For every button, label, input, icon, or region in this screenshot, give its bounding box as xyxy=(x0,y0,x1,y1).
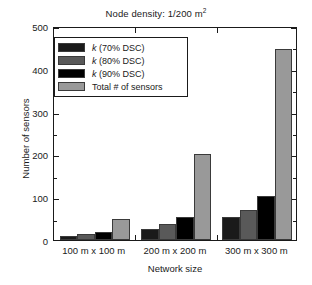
y-axis-tick-minor xyxy=(54,178,57,179)
x-axis-tick xyxy=(217,235,218,240)
y-axis-tick-minor-right xyxy=(293,49,296,50)
y-axis-tick-label: 400 xyxy=(14,64,48,75)
chart-title: Node density: 1/200 m2 xyxy=(0,8,312,19)
bar xyxy=(257,196,275,240)
bar xyxy=(240,210,258,240)
y-axis-tick-label: 300 xyxy=(14,107,48,118)
bar xyxy=(112,219,130,240)
legend-swatch xyxy=(58,69,85,78)
bar xyxy=(222,217,240,240)
x-axis-label: Network size xyxy=(53,263,297,274)
bar xyxy=(60,236,78,240)
x-axis-tick-label: 300 m x 300 m xyxy=(201,245,311,256)
y-axis-tick-label: 100 xyxy=(14,193,48,204)
legend-swatch xyxy=(58,43,85,52)
x-axis-tick xyxy=(135,235,136,240)
y-axis-tick-major xyxy=(54,114,59,115)
y-axis-tick-label: 500 xyxy=(14,22,48,33)
legend-label: k (90% DSC) xyxy=(92,69,145,79)
legend-item[interactable]: k (70% DSC) xyxy=(58,41,183,54)
bar xyxy=(275,49,293,240)
y-axis-tick-minor-right xyxy=(293,135,296,136)
legend-item[interactable]: Total # of sensors xyxy=(58,80,183,93)
y-axis-tick-major-right xyxy=(291,28,296,29)
legend-swatch xyxy=(58,82,85,91)
y-axis-tick-minor xyxy=(54,135,57,136)
chart-title-superscript: 2 xyxy=(203,7,207,14)
legend-swatch xyxy=(58,56,85,65)
legend-label: k (70% DSC) xyxy=(92,43,145,53)
x-axis-tick-top xyxy=(135,28,136,33)
y-axis-tick-major xyxy=(54,199,59,200)
legend-item[interactable]: k (90% DSC) xyxy=(58,67,183,80)
legend-label: Total # of sensors xyxy=(92,82,163,92)
bar xyxy=(176,217,194,240)
x-axis-tick-top xyxy=(217,28,218,33)
bar xyxy=(141,229,159,240)
legend-label: k (80% DSC) xyxy=(92,56,145,66)
bar xyxy=(77,234,95,240)
chart-title-text: Node density: 1/200 m xyxy=(106,8,203,19)
bar xyxy=(159,224,177,240)
bar xyxy=(194,154,212,240)
y-axis-tick-minor xyxy=(54,221,57,222)
y-axis-tick-major xyxy=(54,156,59,157)
legend-item[interactable]: k (80% DSC) xyxy=(58,54,183,67)
y-axis-tick-minor-right xyxy=(293,221,296,222)
bar-chart-figure: Node density: 1/200 m2 Number of sensors… xyxy=(0,0,312,285)
y-axis-tick-label: 200 xyxy=(14,150,48,161)
y-axis-tick-minor-right xyxy=(293,92,296,93)
y-axis-tick-minor-right xyxy=(293,178,296,179)
y-axis-tick-major xyxy=(54,28,59,29)
chart-legend: k (70% DSC)k (80% DSC)k (90% DSC)Total #… xyxy=(54,37,188,97)
bar xyxy=(95,232,113,240)
